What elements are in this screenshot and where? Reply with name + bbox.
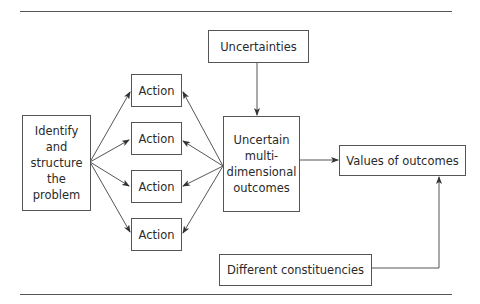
action-label: Action [138, 179, 174, 195]
outcomes-line-2: multi- [227, 148, 297, 164]
values-of-outcomes-box: Values of outcomes [339, 145, 466, 176]
uncertainties-box: Uncertainties [208, 30, 309, 63]
identify-line-3: structure [30, 155, 82, 171]
identify-line-5: problem [30, 187, 82, 203]
action-box-1: Action [131, 74, 182, 107]
values-label: Values of outcomes [346, 153, 458, 169]
identify-problem-box: Identify and structure the problem [22, 115, 91, 211]
different-constituencies-box: Different constituencies [219, 254, 372, 286]
uncertainties-label: Uncertainties [220, 39, 297, 55]
outcomes-line-3: dimensional [227, 164, 297, 180]
identify-line-2: and [30, 139, 82, 155]
identify-line-1: Identify [30, 123, 82, 139]
identify-line-4: the [30, 171, 82, 187]
outcomes-line-4: outcomes [227, 180, 297, 196]
constituencies-label: Different constituencies [227, 262, 364, 278]
outcomes-line-1: Uncertain [227, 132, 297, 148]
uncertain-outcomes-box: Uncertain multi- dimensional outcomes [223, 116, 300, 212]
action-box-2: Action [131, 122, 182, 155]
action-box-3: Action [131, 170, 182, 203]
action-label: Action [138, 227, 174, 243]
action-label: Action [138, 83, 174, 99]
action-label: Action [138, 131, 174, 147]
action-box-4: Action [131, 218, 182, 251]
